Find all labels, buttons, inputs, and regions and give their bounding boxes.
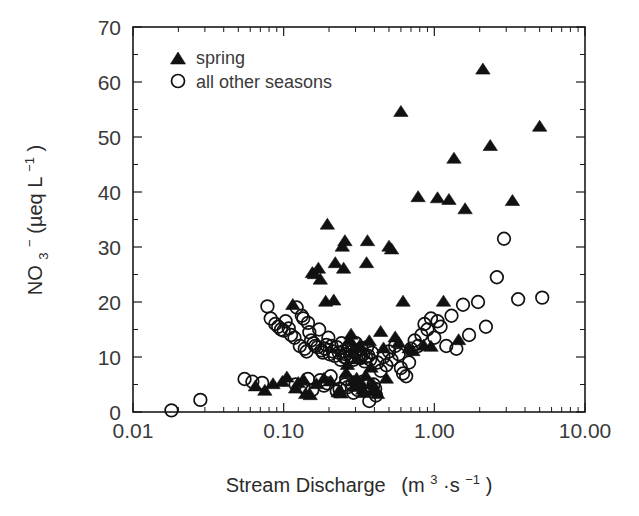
data-point-other-seasons xyxy=(512,293,525,306)
x-tick-label: 1.00 xyxy=(414,419,455,442)
data-point-spring xyxy=(505,195,519,206)
x-tick-label: 0.10 xyxy=(263,419,304,442)
y-tick-label: 70 xyxy=(98,16,121,39)
y-tick-label: 10 xyxy=(98,346,121,369)
x-axis-title-exp-minus1: −1 xyxy=(465,472,480,487)
y-axis-title-subscript-3: 3 xyxy=(36,252,51,259)
data-point-spring xyxy=(344,328,358,339)
y-tick-label: 0 xyxy=(109,401,121,424)
data-point-spring xyxy=(447,152,461,163)
x-axis-title-unit-mid: ·s xyxy=(443,474,460,496)
data-point-other-seasons xyxy=(261,300,274,313)
legend-marker-other-seasons-circle-icon xyxy=(172,75,185,88)
y-tick-label: 20 xyxy=(98,291,121,314)
y-tick-label: 50 xyxy=(98,126,121,149)
x-axis-title-main: Stream Discharge xyxy=(226,474,386,496)
data-point-other-seasons xyxy=(472,296,485,309)
x-axis-title-unit-open: (m xyxy=(401,474,424,496)
data-point-spring xyxy=(360,235,374,246)
data-point-spring xyxy=(359,257,373,268)
data-point-other-seasons xyxy=(165,404,178,417)
data-point-spring xyxy=(436,295,450,306)
legend-marker-spring-triangle-icon xyxy=(171,52,186,64)
x-axis-title-unit-close: ) xyxy=(486,474,493,496)
x-axis-title: Stream Discharge (m 3 ·s −1 ) xyxy=(226,466,493,496)
data-point-spring xyxy=(320,218,334,229)
data-point-spring xyxy=(338,235,352,246)
y-tick-label: 60 xyxy=(98,71,121,94)
scatter-plot: 0.010.101.0010.00 010203040506070 spring… xyxy=(0,0,639,516)
chart-legend: spring all other seasons xyxy=(171,48,333,92)
data-point-spring xyxy=(458,203,472,214)
data-point-spring xyxy=(396,295,410,306)
data-point-spring xyxy=(411,191,425,202)
data-point-other-seasons xyxy=(498,232,511,245)
y-axis-title-unit-close: ) xyxy=(24,145,46,152)
figure-container: 0.010.101.0010.00 010203040506070 spring… xyxy=(0,0,639,516)
data-point-spring xyxy=(476,63,490,74)
data-point-spring xyxy=(373,325,387,336)
data-point-other-seasons xyxy=(491,271,504,284)
data-point-spring xyxy=(483,140,497,151)
y-tick-label: 30 xyxy=(98,236,121,259)
y-axis-title-species: NO xyxy=(24,265,46,295)
data-point-other-seasons xyxy=(457,298,470,311)
data-point-other-seasons xyxy=(480,320,493,333)
x-tick-label: 10.00 xyxy=(559,419,612,442)
series-spring xyxy=(248,63,547,400)
data-point-spring xyxy=(328,257,342,268)
data-point-other-seasons xyxy=(445,309,458,322)
y-axis-title-unit-open: (µeq L xyxy=(24,177,46,234)
data-point-other-seasons xyxy=(536,291,549,304)
legend-label-all-other-seasons: all other seasons xyxy=(196,72,332,92)
y-axis-title: NO 3 − (µeq L −1 ) xyxy=(16,145,52,296)
y-axis-title-charge: − xyxy=(22,239,37,247)
data-point-spring xyxy=(394,105,408,116)
data-point-other-seasons xyxy=(463,329,476,342)
data-point-spring xyxy=(430,192,444,203)
y-tick-labels: 010203040506070 xyxy=(98,16,121,424)
data-point-spring xyxy=(442,193,456,204)
data-point-other-seasons xyxy=(194,394,207,407)
y-axis-title-exp-minus1: −1 xyxy=(22,157,37,172)
legend-label-spring: spring xyxy=(196,48,245,68)
data-point-spring xyxy=(532,120,546,131)
y-tick-label: 40 xyxy=(98,181,121,204)
data-point-spring xyxy=(286,298,300,309)
x-axis-title-exp-3: 3 xyxy=(430,472,437,487)
x-tick-labels: 0.010.101.0010.00 xyxy=(113,419,612,442)
data-point-other-seasons xyxy=(238,373,251,386)
